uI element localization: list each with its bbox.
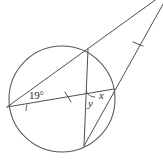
angle-label-y: y: [88, 98, 93, 109]
chord-horizontal: [7, 89, 114, 107]
secant-line-lower: [84, 0, 163, 146]
angle-arc-19-icon: [26, 105, 27, 112]
geometry-canvas: [0, 0, 163, 160]
angle-label-19: 19°: [29, 90, 44, 101]
angle-label-x: x: [99, 90, 104, 101]
geometry-diagram: 19° x y: [0, 0, 163, 160]
